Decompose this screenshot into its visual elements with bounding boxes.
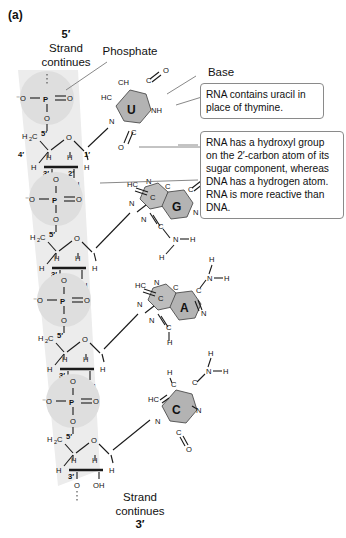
svg-text:C: C [150,193,156,202]
svg-text:O: O [74,234,80,243]
phosphate-label: Phosphate [90,45,170,59]
svg-text:H: H [167,368,172,377]
svg-text:O: O [61,276,67,285]
svg-text:HC: HC [148,395,159,404]
svg-text:P: P [69,398,74,407]
svg-text:H: H [56,466,61,475]
svg-text:N: N [141,215,146,224]
svg-text:⁻O: ⁻O [33,296,43,305]
svg-text:N: N [206,367,211,376]
svg-text:C: C [172,403,181,417]
svg-text:N: N [149,316,154,325]
svg-text:N: N [129,199,134,208]
panel-label: (a) [8,8,23,22]
svg-text:O: O [44,114,50,123]
svg-text:N: N [193,208,198,217]
svg-text:C: C [176,428,182,437]
svg-text:N: N [137,300,142,309]
svg-text:5′: 5′ [49,230,55,239]
svg-text:P: P [60,297,65,306]
svg-text:C: C [165,182,171,191]
five-prime-label: 5′ [46,28,86,41]
svg-text:O: O [186,445,192,454]
svg-text:O: O [70,417,76,426]
svg-text:O: O [84,296,90,305]
svg-text:O: O [66,133,72,142]
svg-text:H: H [224,274,229,283]
svg-text:C: C [146,76,152,85]
svg-text:C: C [57,435,63,444]
svg-text:P: P [52,196,57,205]
svg-text:N: N [109,117,114,126]
hydroxyl-callout: RNA has a hydroxyl group on the 2′-carbo… [200,131,344,219]
nucleotide-unit-guanine: O ⁻O P O O H 2 C 5′ O [25,172,215,290]
svg-text:H: H [223,367,228,376]
svg-text:H: H [167,338,172,347]
svg-text:O: O [82,335,88,344]
svg-text:C: C [192,378,198,387]
svg-text:N: N [173,235,178,244]
strand-continues-bottom-label: Strand continues [92,491,188,518]
base-adenine: A HC N N N C C C N C H N H H [104,255,229,349]
svg-text:3′: 3′ [68,472,74,481]
svg-text:4′: 4′ [18,150,24,159]
svg-text:HC: HC [135,281,146,290]
uracil-callout: RNA contains uracil in place of thymine. [200,83,324,119]
svg-text:C: C [32,132,38,141]
svg-text:O: O [93,397,99,406]
svg-text:U: U [127,103,136,117]
svg-text:H: H [208,349,213,358]
svg-text:H: H [92,264,97,273]
svg-text:H: H [47,365,52,374]
svg-text:H: H [62,355,67,364]
svg-text:O: O [91,436,97,445]
svg-text:N: N [154,278,159,287]
svg-text:N: N [201,309,206,318]
base-guanine: G HC N N N C C C O N H C N H H [96,174,215,262]
svg-text:C: C [188,185,194,194]
svg-text:⁻O: ⁻O [25,195,35,204]
svg-text:C: C [173,283,179,292]
svg-text:5′: 5′ [66,432,72,441]
svg-text:NH: NH [151,106,162,115]
svg-text:H: H [71,456,76,465]
svg-text:H: H [84,163,89,172]
svg-text:H: H [54,254,59,263]
svg-text:HC: HC [127,180,138,189]
svg-text:H: H [109,466,114,475]
svg-text:OH: OH [93,481,104,490]
svg-text:O: O [53,175,59,184]
svg-text:O: O [53,215,59,224]
svg-text:O: O [76,195,82,204]
svg-text:O: O [74,481,80,490]
svg-text:O: O [67,94,73,103]
svg-text:N: N [207,274,212,283]
svg-text:⁻O: ⁻O [16,94,26,103]
svg-text:C: C [40,233,46,242]
svg-text:P: P [43,95,48,104]
svg-text:A: A [180,301,189,315]
svg-text:H: H [47,435,52,444]
three-prime-bottom-label: 3′ [92,518,188,532]
svg-text:CH: CH [118,78,129,87]
rna-diagram-svg: .bond { stroke:#1a1a1a; stroke-width:1.1… [0,0,346,538]
svg-text:H: H [46,153,51,162]
base-cytosine: C C HC N C N C H N H H O [113,349,228,454]
svg-text:HC: HC [101,93,112,102]
svg-text:C: C [48,334,54,343]
svg-text:H: H [190,235,195,244]
svg-text:O: O [118,143,124,152]
svg-text:H: H [100,365,105,374]
svg-text:N: N [155,417,160,426]
svg-text:5′: 5′ [57,331,63,340]
svg-text:O: O [163,66,169,75]
svg-text:H: H [39,264,44,273]
base-label: Base [196,66,246,80]
svg-text:G: G [172,200,181,214]
base-uracil: U CH HC N C NH C O O [88,66,169,152]
svg-text:O: O [70,377,76,386]
svg-text:H: H [159,253,164,262]
svg-text:O: O [61,316,67,325]
svg-text:5′: 5′ [41,129,47,138]
svg-text:⁻O: ⁻O [42,397,52,406]
